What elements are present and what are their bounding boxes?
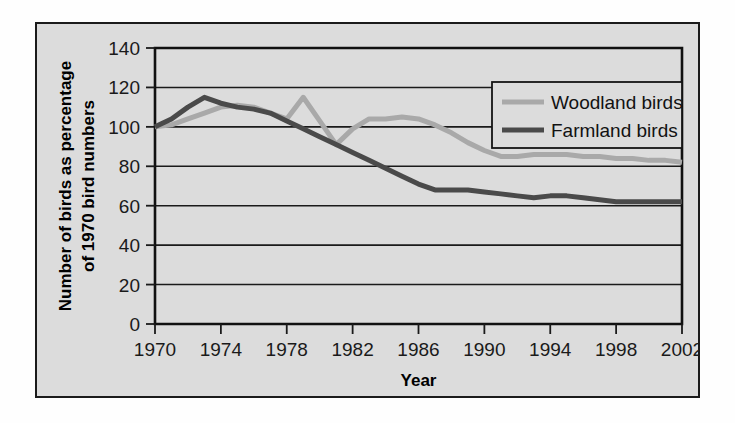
- xtick-label-1990: 1990: [463, 339, 505, 360]
- line-chart: 0204060801001201401970197419781982198619…: [37, 24, 698, 396]
- xtick-label-1982: 1982: [331, 339, 373, 360]
- legend-label-0: Woodland birds: [551, 92, 683, 113]
- ytick-label-140: 140: [108, 38, 140, 59]
- figure-root: 0204060801001201401970197419781982198619…: [0, 0, 735, 423]
- ytick-label-20: 20: [119, 275, 140, 296]
- xtick-label-1986: 1986: [397, 339, 439, 360]
- ytick-label-80: 80: [119, 156, 140, 177]
- xtick-label-1974: 1974: [200, 339, 243, 360]
- ytick-label-60: 60: [119, 196, 140, 217]
- ytick-label-40: 40: [119, 235, 140, 256]
- y-axis-title-line2: of 1970 bird numbers: [79, 100, 98, 272]
- ytick-label-100: 100: [108, 117, 140, 138]
- chart-frame: 0204060801001201401970197419781982198619…: [35, 22, 700, 398]
- xtick-label-1978: 1978: [266, 339, 308, 360]
- y-axis-title-line1: Number of birds as percentage: [56, 61, 75, 311]
- ytick-label-120: 120: [108, 77, 140, 98]
- legend-label-1: Farmland birds: [551, 120, 678, 141]
- xtick-label-1994: 1994: [529, 339, 572, 360]
- ytick-label-0: 0: [129, 314, 140, 335]
- xtick-label-1970: 1970: [134, 339, 176, 360]
- x-axis-title: Year: [401, 371, 437, 390]
- xtick-label-1998: 1998: [595, 339, 637, 360]
- xtick-label-2002: 2002: [661, 339, 698, 360]
